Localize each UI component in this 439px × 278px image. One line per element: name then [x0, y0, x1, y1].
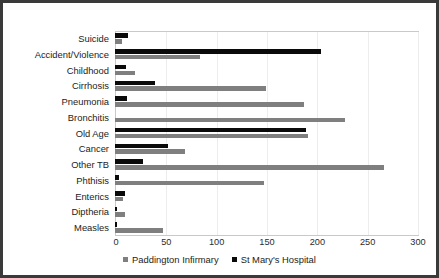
bar-paddington-infirmary	[115, 102, 304, 107]
bar-group	[115, 220, 419, 236]
bar-row: Other TB	[8, 157, 419, 173]
bar-row: Phthisis	[8, 173, 419, 189]
legend-label: Paddington Infirmary	[132, 254, 219, 265]
bar-paddington-infirmary	[115, 55, 200, 60]
x-axis: 050100150200250300	[115, 237, 419, 253]
x-axis-tick-label: 150	[259, 237, 274, 247]
bar-row: Old Age	[8, 126, 419, 142]
category-label: Measles	[8, 220, 115, 236]
bar-group	[115, 78, 419, 94]
chart-frame: SuicideAccident/ViolenceChildhoodCirrhos…	[0, 0, 439, 278]
bar-paddington-infirmary	[115, 181, 264, 186]
category-label: Pneumonia	[8, 94, 115, 110]
bar-row: Accident/Violence	[8, 47, 419, 63]
bar-paddington-infirmary	[115, 39, 122, 44]
bar-group	[115, 126, 419, 142]
bar-st-marys-hospital	[115, 49, 321, 54]
bar-paddington-infirmary	[115, 165, 384, 170]
bar-row: Cancer	[8, 141, 419, 157]
bar-row: Enterics	[8, 189, 419, 205]
x-axis-tick-label: 250	[360, 237, 375, 247]
bar-row: Cirrhosis	[8, 78, 419, 94]
bar-paddington-infirmary	[115, 197, 123, 202]
legend-swatch-icon	[123, 257, 128, 262]
legend-item[interactable]: Paddington Infirmary	[123, 254, 219, 265]
bar-group	[115, 204, 419, 220]
bar-group	[115, 31, 419, 47]
x-axis-tick-label: 0	[113, 237, 118, 247]
category-label: Accident/Violence	[8, 47, 115, 63]
bar-row: Diptheria	[8, 204, 419, 220]
bar-paddington-infirmary	[115, 86, 266, 91]
bar-group	[115, 157, 419, 173]
legend-item[interactable]: St Mary's Hospital	[232, 254, 316, 265]
bar-paddington-infirmary	[115, 149, 185, 154]
category-label: Other TB	[8, 157, 115, 173]
category-label: Old Age	[8, 126, 115, 142]
bar-group	[115, 141, 419, 157]
x-axis-tick-label: 300	[410, 237, 425, 247]
chart-container: SuicideAccident/ViolenceChildhoodCirrhos…	[8, 10, 431, 274]
bar-paddington-infirmary	[115, 228, 163, 233]
bar-st-marys-hospital	[115, 191, 125, 196]
bar-st-marys-hospital	[115, 222, 117, 227]
bar-row: Suicide	[8, 31, 419, 47]
bar-st-marys-hospital	[115, 96, 127, 101]
category-label: Phthisis	[8, 173, 115, 189]
bar-row: Bronchitis	[8, 110, 419, 126]
bar-st-marys-hospital	[115, 159, 143, 164]
chart-legend: Paddington InfirmarySt Mary's Hospital	[8, 254, 431, 265]
bar-st-marys-hospital	[115, 65, 126, 70]
category-label: Cancer	[8, 141, 115, 157]
bar-paddington-infirmary	[115, 134, 308, 139]
bar-group	[115, 63, 419, 79]
category-label: Cirrhosis	[8, 78, 115, 94]
bar-paddington-infirmary	[115, 118, 345, 123]
category-label: Childhood	[8, 63, 115, 79]
bar-group	[115, 189, 419, 205]
bar-group	[115, 173, 419, 189]
bar-group	[115, 47, 419, 63]
bar-rows: SuicideAccident/ViolenceChildhoodCirrhos…	[8, 31, 419, 236]
bar-st-marys-hospital	[115, 175, 119, 180]
x-axis-tick-label: 200	[310, 237, 325, 247]
bar-group	[115, 110, 419, 126]
category-label: Suicide	[8, 31, 115, 47]
bar-row: Pneumonia	[8, 94, 419, 110]
category-label: Diptheria	[8, 204, 115, 220]
legend-label: St Mary's Hospital	[241, 254, 316, 265]
bar-st-marys-hospital	[115, 128, 306, 133]
bar-st-marys-hospital	[115, 207, 117, 212]
bar-paddington-infirmary	[115, 212, 125, 217]
bar-row: Measles	[8, 220, 419, 236]
category-label: Bronchitis	[8, 110, 115, 126]
bar-row: Childhood	[8, 63, 419, 79]
bar-st-marys-hospital	[115, 144, 168, 149]
bar-group	[115, 94, 419, 110]
x-axis-tick-label: 100	[209, 237, 224, 247]
legend-swatch-icon	[232, 257, 237, 262]
bar-st-marys-hospital	[115, 81, 155, 86]
x-axis-tick-label: 50	[161, 237, 171, 247]
category-label: Enterics	[8, 189, 115, 205]
bar-st-marys-hospital	[115, 33, 128, 38]
bar-paddington-infirmary	[115, 71, 135, 76]
